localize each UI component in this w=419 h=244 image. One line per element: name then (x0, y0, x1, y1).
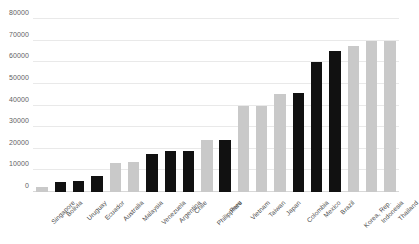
bar-malaysia (128, 162, 139, 192)
bar-chile (183, 151, 194, 192)
bar-japan (274, 94, 285, 192)
bars-layer (33, 14, 399, 201)
y-tick-label: 40000 (9, 95, 29, 102)
bar-mexico (311, 62, 322, 192)
bar-taiwan (256, 106, 267, 193)
bar-uruguay (73, 181, 84, 192)
y-tick-label: 0 (25, 182, 29, 189)
bar-australia (110, 163, 121, 192)
bar-singapore (36, 187, 47, 192)
x-tick-label: Brazil (339, 199, 356, 216)
bar-ecuador (91, 176, 102, 192)
bar-philippines (201, 140, 212, 192)
bar-brazil (329, 51, 340, 192)
x-tick-label: Vietnam (249, 199, 271, 221)
x-axis: SingaporeBoliviaUruguayEcuadorAustraliaM… (33, 199, 399, 244)
x-tick-label: Peru (228, 199, 243, 214)
bar-thailand (384, 41, 395, 192)
bar-vietnam (238, 106, 249, 193)
bar-peru (219, 140, 230, 192)
bar-argentina (165, 151, 176, 192)
bar-korea-rep (348, 46, 359, 192)
plot-area (33, 14, 399, 201)
bar-indonesia (366, 41, 377, 192)
bar-bolivia (55, 182, 66, 192)
bar-venezuela (146, 154, 157, 192)
y-tick-label: 60000 (9, 52, 29, 59)
y-tick-label: 70000 (9, 30, 29, 37)
bar-colombia (293, 93, 304, 192)
y-tick-label: 30000 (9, 117, 29, 124)
x-tick-label: Japan (284, 199, 302, 217)
y-tick-label: 20000 (9, 138, 29, 145)
y-tick-label: 10000 (9, 160, 29, 167)
y-tick-label: 50000 (9, 73, 29, 80)
y-tick-label: 80000 (9, 9, 29, 16)
y-axis: 0100002000030000400005000060000700008000… (0, 14, 31, 201)
